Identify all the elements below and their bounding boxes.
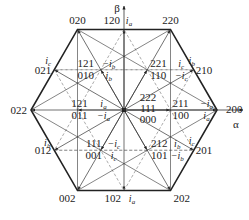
- small-vector-label-bottom: 010: [78, 69, 95, 81]
- small-vector-label-bottom: 101: [151, 149, 168, 161]
- zero-vector-label: 000: [140, 113, 157, 125]
- medium-vector-label: 120: [104, 14, 121, 26]
- medium-vector-label: 201: [196, 144, 213, 156]
- current-label: −ic: [175, 70, 189, 83]
- small-vector-label-bottom: 100: [173, 109, 190, 121]
- state-labels: αβ200220020022002202210ib120ia021ic012ib…: [11, 2, 244, 206]
- current-label: ia: [129, 193, 136, 206]
- current-label: ic: [111, 150, 118, 163]
- large-vector-label: 002: [59, 192, 76, 204]
- medium-vector-label: 102: [105, 192, 122, 204]
- space-vector-diagram: αβ200220020022002202210ib120ia021ic012ib…: [0, 0, 249, 220]
- current-label: ib: [189, 55, 196, 68]
- current-label: −ic: [107, 138, 121, 151]
- small-vector-label-bottom: 011: [71, 109, 87, 121]
- medium-vector-label: 210: [196, 64, 213, 76]
- current-label: ib: [106, 70, 113, 83]
- small-vector-label-top: 121: [71, 97, 88, 109]
- small-vector-label-top: 121: [78, 57, 95, 69]
- small-vector-label-top: 111: [86, 137, 102, 149]
- current-label: ic: [189, 135, 196, 148]
- large-vector-label: 022: [11, 104, 28, 116]
- small-vector-label-top: 221: [150, 57, 167, 69]
- current-label: −ia: [97, 110, 111, 123]
- large-vector-label: 202: [174, 192, 191, 204]
- current-label: ia: [203, 110, 210, 123]
- current-label: −ib: [171, 150, 185, 163]
- small-vector-label-bottom: 110: [150, 69, 167, 81]
- current-label: ia: [126, 15, 133, 28]
- small-vector-label-top: 212: [151, 137, 168, 149]
- beta-axis-label: β: [114, 2, 120, 14]
- large-vector-label: 200: [226, 103, 243, 115]
- current-label: −ib: [102, 58, 116, 71]
- large-vector-label: 020: [69, 14, 86, 26]
- small-vector-label-bottom: 001: [86, 149, 103, 161]
- small-vector-label-top: 211: [173, 97, 189, 109]
- large-vector-label: 220: [162, 14, 179, 26]
- alpha-axis-label: α: [233, 118, 239, 130]
